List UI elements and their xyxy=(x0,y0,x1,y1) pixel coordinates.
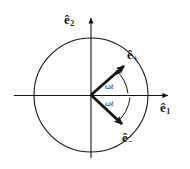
vector-label-e-minus: ê− xyxy=(122,131,133,146)
angle-arc-omega-t-lower xyxy=(117,97,130,122)
angle-label-omega-t-upper: ωt xyxy=(105,82,113,91)
angle-arc-omega-t-upper xyxy=(116,70,128,93)
axis-label-e2: ê2 xyxy=(64,13,74,28)
vector-label-e-plus-hat-base: ê xyxy=(127,48,133,61)
axis-label-e1-subscript: 1 xyxy=(166,107,171,116)
axis-label-e2-subscript: 2 xyxy=(70,19,75,28)
vector-label-e-minus-subscript: − xyxy=(128,137,133,146)
vector-label-e-plus: ê+ xyxy=(127,48,138,63)
axis-label-e1-hat-base: ê xyxy=(160,101,166,114)
vector-label-e-plus-subscript: + xyxy=(133,54,138,63)
angle-label-omega-t-lower: ωt xyxy=(105,99,113,108)
axis-label-e1: ê1 xyxy=(160,101,170,116)
vector-diagram-figure: ê2 ê1 ê+ ê− ωt ωt xyxy=(0,0,190,169)
diagram-canvas xyxy=(0,0,190,169)
axis-label-e2-hat-base: ê xyxy=(64,13,70,26)
vector-label-e-minus-hat-base: ê xyxy=(122,131,128,144)
